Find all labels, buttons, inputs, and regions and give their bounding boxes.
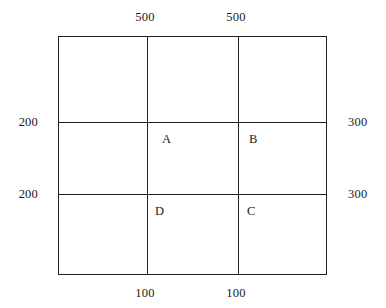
left-label-2: 200 [19,188,38,201]
top-label-1: 500 [135,11,154,24]
bottom-label-1: 100 [135,287,154,300]
cell-label-d: D [155,205,164,218]
grid-vertical-line-2 [238,36,239,275]
grid-outer-frame [58,36,327,275]
cell-label-a: A [162,133,171,146]
grid-horizontal-line-2 [58,194,327,195]
cell-label-b: B [249,133,257,146]
grid-vertical-line-1 [147,36,148,275]
cell-label-c: C [247,205,255,218]
right-label-1: 300 [348,116,367,129]
bottom-label-2: 100 [226,287,245,300]
left-label-1: 200 [19,116,38,129]
diagram-canvas: 500 500 100 100 200 200 300 300 A B D C [0,0,386,308]
right-label-2: 300 [348,188,367,201]
grid-horizontal-line-1 [58,122,327,123]
top-label-2: 500 [226,11,245,24]
